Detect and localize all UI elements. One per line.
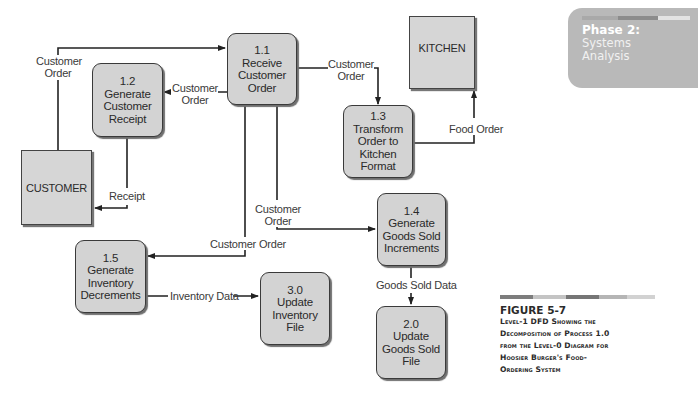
process-id: 3.0 xyxy=(287,284,302,297)
process-1-1: 1.1 Receive Customer Order xyxy=(227,33,297,105)
flow-label-line: Receipt xyxy=(109,190,145,202)
process-name-line: Update xyxy=(277,296,313,309)
process-1-2: 1.2 Generate Customer Receipt xyxy=(92,63,163,137)
entity-kitchen-label: KITCHEN xyxy=(419,42,466,54)
process-name-line: Receipt xyxy=(109,113,147,126)
process-id: 1.1 xyxy=(254,44,269,57)
flow-label-line: Order xyxy=(172,94,218,106)
process-name-line: Update xyxy=(393,330,429,343)
bar-segment xyxy=(658,16,690,20)
flow-label-line: Customer Order xyxy=(210,238,286,250)
caption-line: Ordering System xyxy=(500,364,670,376)
process-name-line: Kitchen xyxy=(360,148,397,161)
process-name-line: File xyxy=(286,321,304,334)
entity-kitchen: KITCHEN xyxy=(409,16,475,89)
process-name-line: Order to xyxy=(358,135,399,148)
phase-title: Phase 2: xyxy=(582,23,698,37)
bar-segment xyxy=(599,295,627,299)
process-3-0: 3.0 Update Inventory File xyxy=(260,272,330,345)
process-1-4: 1.4 Generate Goods Sold Increments xyxy=(377,193,446,266)
process-id: 1.2 xyxy=(120,75,135,88)
process-2-0: 2.0 Update Goods Sold File xyxy=(376,306,446,379)
process-name-line: Goods Sold xyxy=(382,230,440,243)
process-1-5: 1.5 Generate Inventory Decrements xyxy=(75,240,146,313)
process-id: 1.4 xyxy=(404,205,419,218)
flow-label-food-order: Food Order xyxy=(449,123,499,135)
flow-label-customer-order: Customer Order xyxy=(328,58,374,82)
flow-label-line: Customer xyxy=(255,203,301,215)
flow-label-goods-sold-data: Goods Sold Data xyxy=(376,279,446,291)
flow-label-line: Customer xyxy=(36,55,80,67)
flow-label-line: Order xyxy=(36,67,80,79)
process-name-line: Inventory xyxy=(272,309,318,322)
flow-label-customer-order: Customer Order xyxy=(172,82,218,106)
process-name-line: Increments xyxy=(384,242,439,255)
bar-segment xyxy=(566,295,599,299)
flow-label-line: Order xyxy=(255,215,301,227)
process-1-3: 1.3 Transform Order to Kitchen Format xyxy=(343,105,413,178)
process-name-line: Generate xyxy=(87,264,133,277)
caption-line: Decomposition of Process 1.0 xyxy=(500,328,670,340)
process-id: 2.0 xyxy=(403,318,418,331)
caption-line: Hoosier Burger's Food- xyxy=(500,352,670,364)
flow-label-line: Goods Sold Data xyxy=(376,279,457,291)
process-name-line: Generate xyxy=(388,217,434,230)
caption-line: from the Level-0 Diagram for xyxy=(500,340,670,352)
bar-segment xyxy=(627,295,655,299)
process-name-line: Goods Sold xyxy=(382,343,440,356)
process-name-line: Order xyxy=(248,82,276,95)
flow-label-customer-order: Customer Order xyxy=(36,55,80,79)
process-name-line: Transform xyxy=(353,123,403,136)
process-id: 1.5 xyxy=(103,252,118,265)
process-name-line: Receive xyxy=(242,57,282,70)
entity-customer-label: CUSTOMER xyxy=(26,182,87,194)
phase-subtitle-line: Analysis xyxy=(582,50,698,63)
process-name-line: File xyxy=(402,355,420,368)
flow-label-line: Order xyxy=(328,70,374,82)
flow-label-line: Customer xyxy=(172,82,218,94)
bar-segment xyxy=(582,16,618,20)
process-name-line: Format xyxy=(360,160,395,173)
bar-segment xyxy=(618,16,658,20)
bar-segment xyxy=(533,295,566,299)
phase-color-bar xyxy=(582,16,690,20)
process-name-line: Inventory xyxy=(88,277,134,290)
flow-label-line: Food Order xyxy=(449,123,503,135)
entity-customer: CUSTOMER xyxy=(21,150,92,225)
phase-panel: Phase 2: Systems Analysis xyxy=(568,8,698,88)
process-id: 1.3 xyxy=(370,110,385,123)
flow-1-3-to-kitchen xyxy=(413,91,474,143)
flow-label-customer-order: Customer Order xyxy=(255,203,301,227)
flow-label-receipt: Receipt xyxy=(109,190,145,202)
process-name-line: Decrements xyxy=(81,289,141,302)
process-name-line: Generate xyxy=(104,88,150,101)
caption-line: Level-1 DFD Showing the xyxy=(500,316,670,328)
flow-label-line: Customer xyxy=(328,58,374,70)
flow-label-customer-order: Customer Order xyxy=(210,238,280,250)
caption-color-bar xyxy=(500,295,655,299)
process-name-line: Customer xyxy=(103,100,151,113)
figure-caption: FIGURE 5-7 Level-1 DFD Showing the Decom… xyxy=(500,295,670,376)
flow-label-line: Inventory Data xyxy=(170,290,239,302)
flow-label-inventory-data: Inventory Data xyxy=(170,290,232,302)
figure-number: FIGURE 5-7 xyxy=(500,304,670,316)
bar-segment xyxy=(500,295,533,299)
process-name-line: Customer xyxy=(238,69,286,82)
